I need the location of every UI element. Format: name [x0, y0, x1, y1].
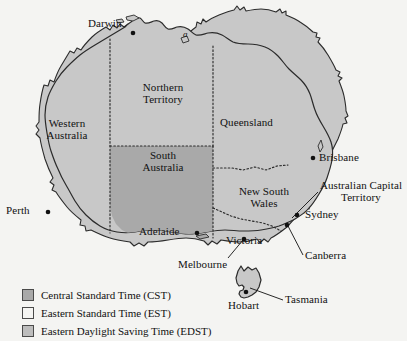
- label-victoria: Victoria: [226, 235, 262, 247]
- label-nsw-line1: New South: [239, 185, 289, 197]
- label-western-australia: Western Australia: [28, 118, 106, 141]
- label-south-australia: South Australia: [126, 150, 200, 173]
- label-adelaide: Adelaide: [139, 226, 180, 238]
- legend-label-edst: Eastern Daylight Saving Time (EDST): [41, 325, 212, 337]
- label-sydney: Sydney: [305, 209, 339, 221]
- label-brisbane: Brisbane: [319, 152, 359, 164]
- legend-label-cst: Central Standard Time (CST): [41, 289, 171, 301]
- marker-brisbane: [311, 156, 316, 161]
- label-darwin: Darwin: [88, 18, 122, 30]
- label-melbourne: Melbourne: [178, 259, 227, 271]
- legend-swatch-cst: [22, 289, 34, 301]
- marker-adelaide: [195, 231, 200, 236]
- label-island-marker: a: [183, 30, 188, 39]
- label-wa-line1: Western: [49, 117, 85, 129]
- label-nt-line2: Territory: [143, 93, 183, 105]
- map-legend: Central Standard Time (CST) Eastern Stan…: [22, 287, 212, 341]
- marker-perth: [46, 210, 51, 215]
- label-australian-capital-territory: Australian Capital Territory: [315, 180, 407, 203]
- legend-swatch-edst: [22, 325, 34, 337]
- label-sa-line2: Australia: [142, 161, 183, 173]
- label-nsw-line2: Wales: [250, 197, 277, 209]
- label-canberra: Canberra: [305, 250, 346, 262]
- legend-item-est[interactable]: Eastern Standard Time (EST): [22, 305, 212, 321]
- label-nt-line1: Northern: [143, 81, 184, 93]
- marker-hobart: [244, 290, 249, 295]
- region-tasmania: [236, 266, 261, 298]
- legend-swatch-est: [22, 307, 34, 319]
- label-act-line1: Australian Capital: [320, 179, 402, 191]
- marker-darwin: [131, 31, 136, 36]
- label-act-line2: Territory: [341, 191, 381, 203]
- label-tasmania: Tasmania: [285, 294, 328, 306]
- legend-item-cst[interactable]: Central Standard Time (CST): [22, 287, 212, 303]
- label-perth: Perth: [6, 205, 30, 217]
- leader-canberra: [288, 226, 303, 255]
- label-queensland: Queensland: [220, 117, 273, 129]
- legend-item-edst[interactable]: Eastern Daylight Saving Time (EDST): [22, 323, 212, 339]
- label-wa-line2: Australia: [46, 129, 87, 141]
- legend-label-est: Eastern Standard Time (EST): [41, 307, 171, 319]
- label-new-south-wales: New South Wales: [225, 186, 303, 209]
- label-sa-line1: South: [150, 149, 176, 161]
- label-hobart: Hobart: [228, 300, 259, 312]
- label-northern-territory: Northern Territory: [125, 82, 201, 105]
